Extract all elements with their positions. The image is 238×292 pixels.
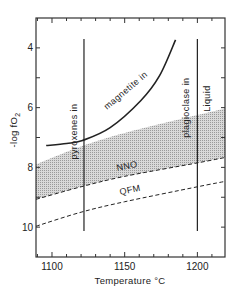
annotation-pyroxenes-in: pyroxenes in: [69, 104, 79, 160]
chart: 11001150120046810 magnetite inpyroxenes …: [0, 0, 238, 292]
annotation-magnetite-in: magnetite in: [102, 69, 150, 111]
y-axis-title-main: -log fO: [8, 117, 19, 148]
y-tick-label: 4: [27, 42, 33, 53]
y-tick-label: 8: [27, 162, 33, 173]
y-axis-title-sub: 2: [14, 113, 21, 117]
y-tick-label: 6: [27, 102, 33, 113]
x-axis-title: Temperature °C: [95, 275, 166, 286]
annotation-qfm: QFM: [118, 183, 141, 197]
y-tick-label: 10: [22, 222, 34, 233]
x-tick-label: 1150: [114, 261, 136, 272]
y-axis-title: -log fO2: [8, 113, 21, 148]
annotation-liquid: Liquid: [202, 85, 212, 111]
x-tick-label: 1200: [186, 261, 209, 272]
annotation-plagioclase-in: plagioclase in: [181, 78, 191, 138]
x-tick-label: 1100: [41, 261, 63, 272]
